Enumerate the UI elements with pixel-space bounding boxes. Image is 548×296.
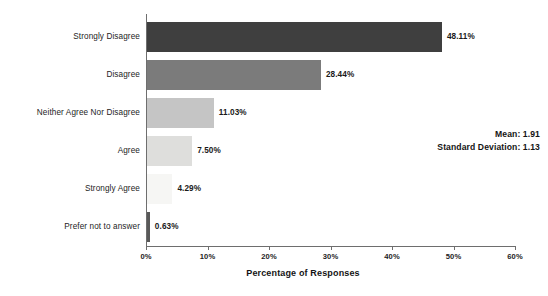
bar [146, 98, 214, 128]
category-label: Neither Agree Nor Disagree [5, 108, 140, 118]
bar [146, 136, 192, 166]
category-label: Agree [5, 146, 140, 156]
x-axis-tick-label: 60% [507, 252, 523, 261]
bar-value-label: 28.44% [326, 70, 354, 80]
standard-deviation-value: Standard Deviation: 1.13 [437, 141, 540, 154]
x-axis-tick-label: 50% [446, 252, 462, 261]
bar-value-label: 4.29% [177, 184, 201, 194]
x-axis-tick-label: 0% [140, 252, 151, 261]
bar [146, 22, 442, 52]
category-label: Strongly Disagree [5, 32, 140, 42]
bar-chart: Strongly Disagree Disagree Neither Agree… [0, 0, 548, 296]
x-axis-tick [454, 246, 455, 250]
category-label: Disagree [5, 70, 140, 80]
bar [146, 174, 172, 204]
x-axis-tick [146, 246, 147, 250]
x-axis-tick [269, 246, 270, 250]
x-axis-tick-label: 40% [384, 252, 400, 261]
category-label: Prefer not to answer [5, 222, 140, 232]
bar-value-label: 11.03% [219, 108, 247, 118]
category-label: Strongly Agree [5, 184, 140, 194]
mean-value: Mean: 1.91 [437, 128, 540, 141]
x-axis-tick-label: 20% [261, 252, 277, 261]
x-axis-tick-label: 30% [323, 252, 339, 261]
x-axis-title: Percentage of Responses [0, 268, 548, 278]
bar-value-label: 0.63% [155, 222, 179, 232]
x-axis-tick [331, 246, 332, 250]
x-axis-tick [392, 246, 393, 250]
y-axis-line [146, 14, 147, 246]
x-axis-tick [208, 246, 209, 250]
statistics-annotation: Mean: 1.91 Standard Deviation: 1.13 [437, 128, 540, 153]
bar-value-label: 7.50% [197, 146, 221, 156]
x-axis-tick [515, 246, 516, 250]
x-axis-tick-label: 10% [200, 252, 216, 261]
bar-value-label: 48.11% [447, 32, 475, 42]
bar [146, 60, 321, 90]
